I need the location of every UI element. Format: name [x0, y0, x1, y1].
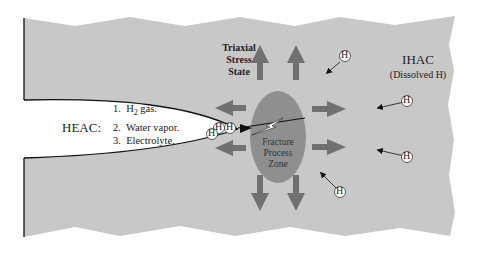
ihac-title: IHAC — [386, 52, 450, 68]
source-text: H — [126, 103, 134, 114]
source-number: 3. — [113, 135, 121, 146]
h-label: H — [215, 121, 222, 132]
stress-line: Triaxial — [219, 42, 259, 54]
source-number: 2. — [113, 122, 121, 133]
h-label: H — [208, 127, 215, 138]
source-text: Water vapor. — [126, 122, 179, 133]
h-label: H — [403, 94, 410, 105]
stress-line: Stress — [219, 54, 259, 66]
ihac-subtitle: (Dissolved H) — [382, 69, 454, 80]
heac-source-3: 3. Electrolyte. — [113, 135, 175, 146]
source-suffix: gas. — [138, 103, 157, 114]
source-number: 1. — [113, 103, 121, 114]
heac-label: HEAC: — [62, 120, 101, 136]
source-text: Electrolyte. — [126, 135, 175, 146]
stress-line: State — [219, 66, 259, 78]
zone-line: Zone — [253, 159, 303, 170]
triaxial-stress-label: Triaxial Stress State — [219, 42, 259, 78]
heac-source-2: 2. Water vapor. — [113, 122, 179, 133]
h-label: H — [341, 49, 348, 60]
h-label: H — [336, 185, 343, 196]
zone-line: Fracture — [253, 137, 303, 148]
h-label: H — [403, 150, 410, 161]
h-label: H — [226, 121, 233, 132]
heac-source-1: 1. H2 gas. — [113, 103, 157, 117]
fracture-zone-label: Fracture Process Zone — [253, 137, 303, 170]
zone-line: Process — [253, 148, 303, 159]
